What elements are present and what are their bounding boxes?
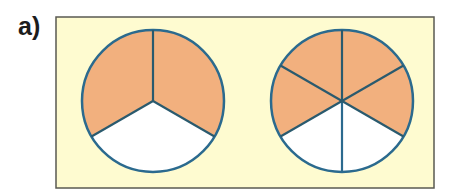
circle-thirds xyxy=(82,30,224,172)
circle-sixths xyxy=(271,30,413,172)
fraction-diagram xyxy=(0,0,451,195)
